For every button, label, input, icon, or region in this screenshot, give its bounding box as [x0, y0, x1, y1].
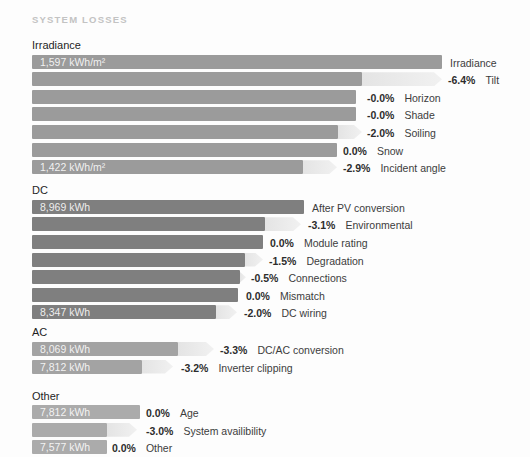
loss-row-dc-ac-conversion: 8,069 kWh-3.3%DC/AC conversion [32, 342, 530, 356]
bar-other: 7,577 kWh [32, 440, 107, 454]
loss-arrow-icon [303, 160, 337, 174]
system-losses-report: SYSTEM LOSSES Irradiance1,597 kWh/m²Irra… [0, 0, 530, 457]
loss-label: DC/AC conversion [257, 344, 343, 356]
bar-value-label: 1,422 kWh/m² [32, 160, 303, 174]
bar-dc-ac-conversion: 8,069 kWh [32, 342, 178, 356]
loss-row-soiling: -2.0%Soiling [32, 125, 530, 139]
loss-row-irradiance: 1,597 kWh/m²Irradiance [32, 55, 530, 69]
loss-row-environmental: -3.1%Environmental [32, 217, 530, 231]
loss-label: Age [180, 407, 199, 419]
loss-row-mismatch: 0.0%Mismatch [32, 288, 530, 302]
loss-label: Irradiance [450, 57, 497, 69]
bar-value-label: 8,969 kWh [32, 200, 304, 214]
bar-system-availibility [32, 423, 107, 437]
loss-row-module-rating: 0.0%Module rating [32, 235, 530, 249]
row-annotation: -3.1%Environmental [308, 217, 413, 231]
loss-arrow-icon [216, 305, 237, 319]
loss-row-dc-wiring: 8,347 kWh-2.0%DC wiring [32, 305, 530, 319]
loss-percent: -3.3% [220, 344, 247, 356]
section-ac: AC8,069 kWh-3.3%DC/AC conversion7,812 kW… [32, 327, 530, 373]
loss-label: Snow [377, 145, 403, 157]
loss-arrow-icon [178, 342, 214, 356]
bar-inverter-clipping: 7,812 kWh [32, 360, 142, 374]
loss-row-age: 7,812 kWh0.0%Age [32, 405, 530, 419]
loss-label: Connections [288, 272, 346, 284]
system-losses-chart: Irradiance1,597 kWh/m²Irradiance-6.4%Til… [32, 40, 530, 454]
loss-label: Soiling [404, 127, 436, 139]
loss-percent: -0.5% [251, 272, 278, 284]
section-dc: DC8,969 kWhAfter PV conversion-3.1%Envir… [32, 185, 530, 319]
loss-percent: 0.0% [270, 237, 294, 249]
row-annotation: 0.0%Age [146, 405, 199, 419]
bar-soiling [32, 125, 338, 139]
loss-label: System availibility [183, 425, 266, 437]
section-title-dc: DC [32, 185, 530, 196]
loss-label: Module rating [304, 237, 368, 249]
row-annotation: 0.0%Snow [343, 143, 403, 157]
loss-percent: 0.0% [146, 407, 170, 419]
loss-row-snow: 0.0%Snow [32, 143, 530, 157]
bar-irradiance: 1,597 kWh/m² [32, 55, 442, 69]
section-irradiance: Irradiance1,597 kWh/m²Irradiance-6.4%Til… [32, 40, 530, 174]
loss-row-degradation: -1.5%Degradation [32, 253, 530, 267]
loss-percent: -0.0% [367, 109, 394, 121]
loss-label: After PV conversion [312, 202, 405, 214]
row-annotation: 0.0%Module rating [270, 235, 368, 249]
loss-label: Mismatch [280, 290, 325, 302]
bar-value-label: 8,347 kWh [32, 305, 216, 319]
loss-percent: 0.0% [343, 145, 367, 157]
loss-percent: -3.0% [146, 425, 173, 437]
bar-dc-wiring: 8,347 kWh [32, 305, 216, 319]
loss-row-horizon: -0.0%Horizon [32, 90, 530, 104]
loss-arrow-icon [142, 360, 173, 374]
loss-percent: -2.0% [244, 307, 271, 319]
row-annotation: -2.0%DC wiring [244, 305, 327, 319]
row-annotation: -2.9%Incident angle [343, 160, 446, 174]
loss-arrow-icon [240, 270, 246, 284]
row-annotation: -3.2%Inverter clipping [181, 360, 293, 374]
bar-value-label: 8,069 kWh [32, 342, 178, 356]
loss-arrow-icon [265, 217, 301, 231]
loss-row-tilt: -6.4%Tilt [32, 72, 530, 86]
bar-mismatch [32, 288, 238, 302]
bar-value-label: 1,597 kWh/m² [32, 55, 442, 69]
loss-row-other: 7,577 kWh0.0%Other [32, 440, 530, 454]
loss-row-incident-angle: 1,422 kWh/m²-2.9%Incident angle [32, 160, 530, 174]
loss-label: Tilt [485, 74, 499, 86]
loss-label: DC wiring [281, 307, 327, 319]
bar-age: 7,812 kWh [32, 405, 140, 419]
loss-label: Horizon [404, 92, 440, 104]
loss-row-system-availibility: -3.0%System availibility [32, 423, 530, 437]
section-title-other: Other [32, 391, 530, 402]
section-other: Other7,812 kWh0.0%Age-3.0%System availib… [32, 391, 530, 455]
bar-module-rating [32, 235, 263, 249]
row-annotation: -3.0%System availibility [146, 423, 266, 437]
bar-connections [32, 270, 240, 284]
loss-row-inverter-clipping: 7,812 kWh-3.2%Inverter clipping [32, 360, 530, 374]
row-annotation: -1.5%Degradation [269, 253, 364, 267]
bar-value-label: 7,577 kWh [32, 440, 107, 454]
page-title: SYSTEM LOSSES [32, 15, 530, 25]
loss-percent: 0.0% [246, 290, 270, 302]
bar-after-pv-conversion: 8,969 kWh [32, 200, 304, 214]
loss-percent: -2.0% [367, 127, 394, 139]
loss-label: Shade [404, 109, 434, 121]
loss-arrow-icon [362, 72, 442, 86]
row-annotation: -6.4%Tilt [448, 72, 499, 86]
loss-label: Environmental [345, 219, 412, 231]
loss-percent: -0.0% [367, 92, 394, 104]
bar-incident-angle: 1,422 kWh/m² [32, 160, 303, 174]
row-annotation: -0.5%Connections [251, 270, 347, 284]
loss-percent: -3.1% [308, 219, 335, 231]
bar-value-label: 7,812 kWh [32, 360, 142, 374]
bar-degradation [32, 253, 245, 267]
row-annotation: 0.0%Mismatch [246, 288, 325, 302]
loss-arrow-icon [338, 125, 362, 139]
row-annotation: After PV conversion [312, 200, 405, 214]
bar-tilt [32, 72, 362, 86]
loss-percent: -1.5% [269, 255, 296, 267]
loss-arrow-icon [245, 253, 263, 267]
loss-percent: 0.0% [112, 442, 136, 454]
row-annotation: -3.3%DC/AC conversion [220, 342, 344, 356]
loss-arrow-icon [107, 423, 137, 437]
